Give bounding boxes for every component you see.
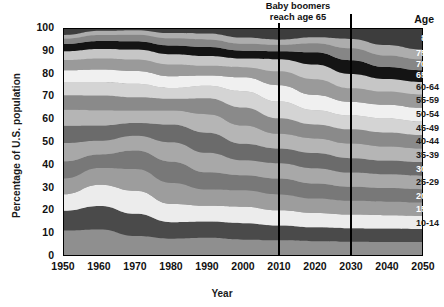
y-tick-label: 30 [14,181,54,193]
legend-label-20-24: 20-24 [416,192,439,201]
legend-label-45-49: 45-49 [416,124,439,133]
plot-area [63,28,423,256]
legend-label-50-54: 50-54 [416,110,439,119]
legend-label-75-79: 75-79 [416,49,439,58]
y-tick-label: 60 [14,112,54,124]
legend-label-35-39: 35-39 [416,151,439,160]
legend-label-70-74: 70-74 [416,60,439,69]
x-axis-title: Year [0,288,444,299]
legend-label-30-34: 30-34 [416,165,439,174]
y-tick-label: 40 [14,158,54,170]
marker-line-2010 [278,14,280,256]
stacked-area-series [64,29,422,255]
annotation-baby-boomers: Baby boomers reach age 65 [255,1,341,23]
y-tick-label: 70 [14,89,54,101]
legend-label-80-+: 80 + [421,34,439,43]
y-tick-label: 100 [14,21,54,33]
x-tick-label: 2050 [401,260,444,272]
y-tick-label: 10 [14,226,54,238]
legend-label-25-29: 25-29 [416,178,439,187]
legend-label-0-4: 0-4 [426,245,439,254]
marker-line-2030 [350,14,352,256]
legend-label-15-19: 15-19 [416,205,439,214]
legend-label-65-69: 65-69 [416,71,439,80]
y-tick-label: 20 [14,203,54,215]
y-tick-label: 90 [14,44,54,56]
y-tick-label: 50 [14,135,54,147]
chart-figure: Percentage of U.S. population Year 01020… [0,0,444,307]
legend-label-40-44: 40-44 [416,137,439,146]
legend-label-10-14: 10-14 [416,219,439,228]
y-tick-label: 80 [14,67,54,79]
legend-header: Age [414,13,434,25]
legend-label-60-64: 60-64 [416,83,439,92]
legend-label-55-59: 55-59 [416,96,439,105]
legend-label-5-9: 5-9 [426,232,439,241]
